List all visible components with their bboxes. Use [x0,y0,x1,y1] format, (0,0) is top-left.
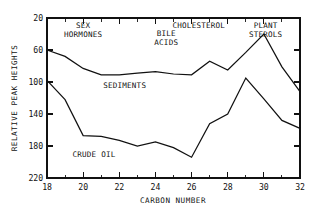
x-axis-ticks-bottom [47,172,300,178]
x-tick-label: 20 [78,182,88,192]
annotation-sediments: SEDIMENTS [103,81,146,90]
x-tick-label: 24 [151,182,161,192]
x-tick-label: 22 [114,182,124,192]
x-tick-label: 26 [187,182,197,192]
data-series-group [47,34,300,157]
y-tick-label: 100 [29,77,44,87]
y-axis-ticks [47,18,53,178]
line-chart: 2201801401006020 1820222426283032 SEXHOR… [0,0,321,212]
y-axis-tick-labels: 2201801401006020 [29,13,44,183]
annotation-bile: BILE [157,29,176,38]
y-axis-ticks-right [294,50,300,146]
x-tick-label: 28 [223,182,233,192]
annotation-sex: SEX [76,21,91,30]
y-axis-title: RELATIVE PEAK HEIGHTS [10,45,19,152]
annotation-plant: PLANT [254,21,278,30]
chart-annotations: SEXHORMONESCHOLESTEROLBILEACIDSPLANTSTER… [64,21,283,159]
y-tick-label: 220 [29,173,44,183]
chart-figure: 2201801401006020 1820222426283032 SEXHOR… [0,0,321,212]
y-tick-label: 180 [29,141,44,151]
annotation-cholesterol: CHOLESTEROL [173,21,226,30]
annotation-plant-line2: STEROLS [249,30,283,39]
x-tick-label: 30 [259,182,269,192]
x-axis-tick-labels: 1820222426283032 [42,182,305,192]
annotation-crude-oil: CRUDE OIL [73,150,116,159]
y-tick-label: 140 [29,109,44,119]
y-tick-label: 60 [33,45,43,55]
annotation-sex-line2: HORMONES [64,30,102,39]
x-tick-label: 18 [42,182,52,192]
y-tick-label: 20 [33,13,43,23]
x-tick-label: 32 [295,182,305,192]
x-axis-title: CARBON NUMBER [140,196,206,205]
annotation-bile-line2: ACIDS [154,38,178,47]
series-line-crude-oil [47,78,300,157]
